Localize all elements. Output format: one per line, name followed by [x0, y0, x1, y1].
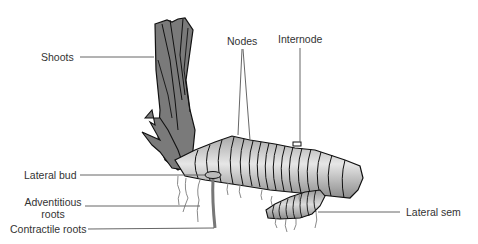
- label-lateral-bud: Lateral bud: [24, 169, 77, 181]
- main-rhizome-shape: [175, 136, 363, 198]
- contractile-root-shape: [213, 179, 215, 228]
- label-adventitious-roots: Adventitious roots: [24, 196, 82, 220]
- label-adventitious-roots-line1: Adventitious: [24, 196, 82, 208]
- lateral-bud-shape: [205, 172, 221, 179]
- label-shoots: Shoots: [41, 51, 74, 63]
- rhizome-diagram: Shoots Nodes Internode Lateral bud Adven…: [0, 0, 478, 244]
- label-adventitious-roots-line2: roots: [24, 208, 82, 220]
- label-lateral-sem: Lateral sem: [406, 206, 461, 218]
- shoots-shape: [142, 18, 195, 170]
- label-contractile-roots: Contractile roots: [10, 223, 86, 235]
- label-internode: Internode: [278, 33, 322, 45]
- label-nodes: Nodes: [227, 35, 257, 47]
